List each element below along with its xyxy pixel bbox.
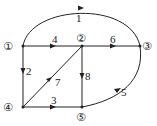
edge-1-label: 1 bbox=[76, 12, 82, 24]
arrow-8 bbox=[80, 73, 85, 79]
edge-4-label: 4 bbox=[52, 33, 58, 45]
node-1-dot bbox=[22, 45, 25, 48]
edge-5 bbox=[82, 46, 141, 107]
node-5-dot bbox=[81, 106, 84, 109]
arrow-7 bbox=[46, 77, 52, 82]
node-4-dot bbox=[22, 106, 25, 109]
node-3-label: ③ bbox=[142, 40, 152, 53]
edge-5-label: 5 bbox=[121, 86, 127, 98]
arrow-1 bbox=[78, 6, 84, 11]
directed-graph: ① ② ③ ④ ⑤ 1 2 3 4 5 6 7 8 bbox=[0, 0, 157, 126]
arrow-2 bbox=[21, 68, 26, 74]
edge-8-label: 8 bbox=[85, 70, 91, 82]
node-2-label: ② bbox=[76, 32, 86, 45]
node-1-label: ① bbox=[3, 40, 13, 53]
node-4-label: ④ bbox=[3, 101, 13, 114]
edge-2-label: 2 bbox=[26, 65, 32, 77]
edge-6-label: 6 bbox=[110, 33, 116, 45]
edge-7-label: 7 bbox=[55, 76, 61, 88]
node-5-label: ⑤ bbox=[76, 111, 86, 124]
edge-3-label: 3 bbox=[51, 94, 57, 106]
